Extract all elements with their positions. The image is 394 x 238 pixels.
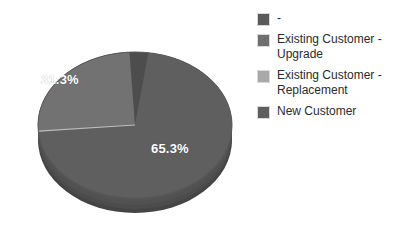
pie-graphic bbox=[0, 0, 252, 238]
legend-label-1: Existing Customer - Upgrade bbox=[277, 32, 389, 62]
legend-item-0[interactable]: - bbox=[257, 11, 394, 26]
legend-item-3[interactable]: New Customer bbox=[257, 104, 394, 119]
legend-label-3: New Customer bbox=[277, 104, 356, 119]
pie-chart-figure: 31.3% 65.3% - Existing Customer - Upgrad… bbox=[0, 0, 394, 238]
legend-swatch-icon-0 bbox=[257, 13, 270, 26]
legend-item-1[interactable]: Existing Customer - Upgrade bbox=[257, 32, 394, 62]
legend-swatch-icon-3 bbox=[257, 106, 270, 119]
legend-label-0: - bbox=[277, 11, 281, 26]
legend-label-2: Existing Customer - Replacement bbox=[277, 68, 389, 98]
pie-slice-existing-upgrade bbox=[38, 52, 135, 131]
slice-data-label-new-customer: 65.3% bbox=[151, 141, 189, 156]
legend-swatch-icon-1 bbox=[257, 34, 270, 47]
legend-item-2[interactable]: Existing Customer - Replacement bbox=[257, 68, 394, 98]
slice-data-label-upgrade: 31.3% bbox=[41, 72, 79, 87]
pie-plot-area: 31.3% 65.3% bbox=[0, 0, 252, 238]
chart-legend: - Existing Customer - Upgrade Existing C… bbox=[257, 11, 394, 125]
legend-swatch-icon-2 bbox=[257, 70, 270, 83]
